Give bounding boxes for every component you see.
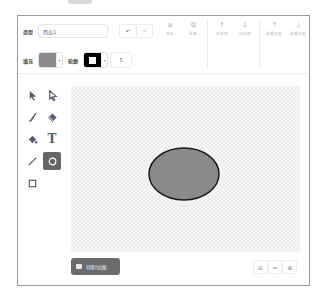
arrow-bottom-icon: ⤓ [297, 20, 300, 30]
drawing-canvas[interactable] [71, 86, 300, 252]
ungroup-button[interactable]: ⧉ 拆散 [182, 20, 204, 42]
line-tool[interactable] [23, 152, 41, 170]
select-tool[interactable] [23, 86, 41, 104]
ungroup-label: 拆散 [189, 31, 197, 36]
zoom-in-icon[interactable]: ⊕ [282, 260, 297, 274]
image-icon [76, 264, 82, 269]
outline-swatch [84, 53, 101, 67]
zoom-reset-icon[interactable]: = [268, 260, 283, 274]
backward-button[interactable]: ↓ 往后放 [234, 20, 256, 42]
fill-color-picker[interactable]: ▾ [38, 52, 63, 68]
chevron-down-icon: ▾ [101, 53, 107, 67]
line-icon [27, 156, 38, 167]
arrow-up-icon: ↑ [219, 20, 225, 30]
reshape-tool[interactable] [43, 86, 61, 104]
toolbar-row-2: 填充 ▾ 轮廓 ▾ 5 [18, 46, 309, 74]
outline-color-picker[interactable]: ▾ [83, 52, 108, 68]
forward-button[interactable]: ↑ 往前放 [211, 20, 233, 42]
zoom-out-icon[interactable]: ⊖ [253, 260, 268, 274]
chevron-down-icon: ▾ [56, 53, 62, 67]
forward-label: 往前放 [216, 31, 228, 36]
convert-to-bitmap-button[interactable]: 转换为位图 [71, 258, 120, 275]
back-label: 放最后面 [290, 31, 306, 36]
ellipse-shape[interactable] [71, 86, 300, 252]
undo-redo-group: ↶ ↷ [119, 24, 153, 38]
arrow-down-icon: ↓ [242, 20, 248, 30]
costume-label: 造型 [23, 28, 33, 35]
eraser-tool[interactable] [43, 108, 61, 126]
outline-width-input[interactable]: 5 [110, 52, 132, 68]
brush-icon [27, 112, 38, 123]
toolbar-row-1: 造型 ↶ ↷ ⧈ 组合 ⧉ 拆散 ↑ 往前放 ↓ 往后放 ⤒ 放最前面 ⤓ [18, 16, 309, 46]
eraser-icon [47, 112, 58, 123]
rectangle-icon [27, 178, 38, 189]
circle-icon [47, 156, 58, 167]
tool-palette: T [23, 86, 63, 192]
zoom-controls: ⊖ = ⊕ [253, 260, 297, 274]
reshape-icon [47, 90, 58, 101]
front-label: 放最前面 [266, 31, 282, 36]
rectangle-tool[interactable] [23, 174, 41, 192]
text-icon: T [48, 132, 57, 146]
brush-tool[interactable] [23, 108, 41, 126]
convert-label: 转换为位图 [86, 264, 106, 270]
fill-label: 填充 [23, 57, 33, 64]
text-tool[interactable]: T [43, 130, 61, 148]
group-button[interactable]: ⧈ 组合 [159, 20, 181, 42]
fill-swatch [39, 53, 56, 67]
backward-label: 往后放 [239, 31, 251, 36]
back-button[interactable]: ⤓ 放最后面 [287, 20, 309, 42]
top-tab-indicator [68, 0, 92, 4]
ungroup-icon: ⧉ [191, 20, 196, 30]
circle-tool[interactable] [43, 152, 61, 170]
fill-tool[interactable] [23, 130, 41, 148]
undo-icon[interactable]: ↶ [120, 25, 136, 37]
front-button[interactable]: ⤒ 放最前面 [263, 20, 285, 42]
redo-icon[interactable]: ↷ [136, 25, 153, 37]
group-icon: ⧈ [168, 20, 172, 30]
arrow-top-icon: ⤒ [273, 20, 276, 30]
select-arrow-icon [27, 90, 38, 101]
costume-name-input[interactable] [38, 24, 108, 38]
paint-editor: 造型 ↶ ↷ ⧈ 组合 ⧉ 拆散 ↑ 往前放 ↓ 往后放 ⤒ 放最前面 ⤓ [17, 15, 310, 286]
outline-label: 轮廓 [68, 57, 78, 64]
fill-bucket-icon [27, 134, 38, 145]
group-label: 组合 [166, 31, 174, 36]
